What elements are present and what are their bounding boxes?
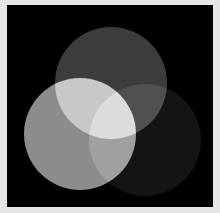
circle-right (89, 84, 201, 196)
black-square-frame (7, 5, 213, 207)
